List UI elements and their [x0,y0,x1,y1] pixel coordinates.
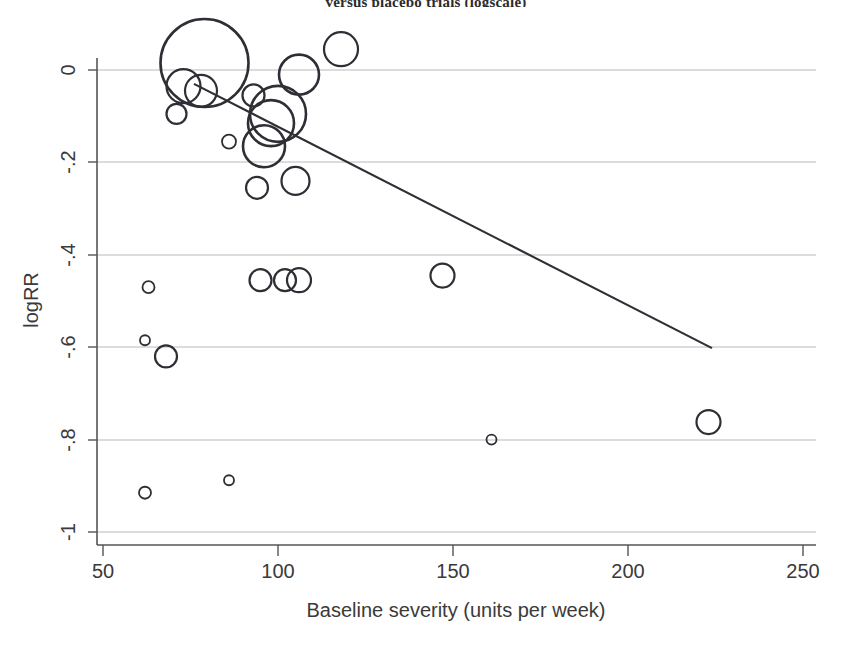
data-point-bubble [140,335,150,345]
gridlines [97,70,816,532]
data-point-bubble [167,69,201,103]
data-point-bubble [155,345,177,367]
data-point-bubble [287,268,311,292]
y-tick-label-0: 0 [57,64,79,75]
data-point-bubble [143,281,155,293]
data-point-bubble [161,19,249,107]
data-point-bubble [250,86,306,142]
x-tick-labels: 50 100 150 200 250 [92,560,820,582]
y-tick-labels: 0 -.2 -.4 -.6 -.8 -1 [57,64,79,540]
bubble-plot-figure: versus placebo trials (logscale) [0,0,852,650]
y-tick-label-2: -.4 [57,243,79,266]
data-point-bubble [274,269,296,291]
x-tick-label-3: 200 [611,560,644,582]
y-tick-label-1: -.2 [57,150,79,173]
x-tick-label-1: 100 [261,560,294,582]
data-point-bubble [139,487,151,499]
x-tick-label-4: 250 [786,560,819,582]
data-point-bubble [222,135,236,149]
plot-canvas: 0 -.2 -.4 -.6 -.8 -1 logRR 50 100 150 20… [0,0,852,650]
bubble-series [139,19,721,499]
data-point-bubble [697,410,721,434]
x-tick-label-2: 150 [436,560,469,582]
x-axis-title: Baseline severity (units per week) [306,599,605,621]
data-point-bubble [224,475,234,485]
regression-line [194,84,712,348]
data-point-bubble [250,269,272,291]
y-tick-label-4: -.8 [57,428,79,451]
y-tick-label-5: -1 [57,523,79,541]
data-point-bubble [167,104,187,124]
data-point-bubble [246,177,268,199]
axes [88,58,816,556]
y-tick-label-3: -.6 [57,335,79,358]
data-point-bubble [324,32,358,66]
x-tick-label-0: 50 [92,560,114,582]
data-point-bubble [279,55,319,95]
y-axis-title: logRR [20,272,42,328]
data-point-bubble [431,264,455,288]
data-point-bubble [282,167,310,195]
